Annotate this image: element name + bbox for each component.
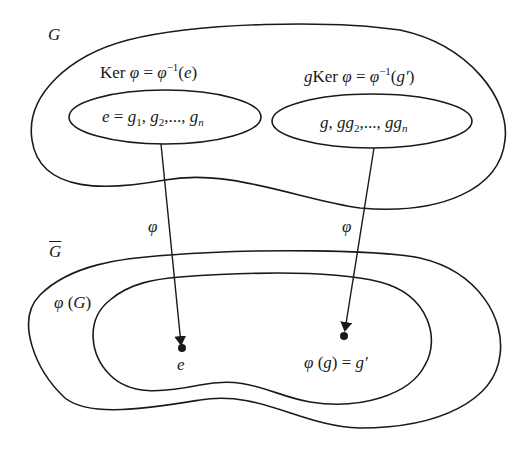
phi-label-left: φ xyxy=(148,218,157,235)
phi-arrow-left xyxy=(161,144,181,344)
diagram-shapes xyxy=(0,0,526,449)
point-e-label: e xyxy=(177,356,185,373)
set-G-bar-label: G xyxy=(49,243,61,260)
image-phi-G-label: φ (G) xyxy=(54,294,91,311)
point-e xyxy=(178,344,186,352)
image-phi-G-boundary xyxy=(93,273,431,404)
homomorphism-diagram: G Ker φ = φ−1(e) e = g1, g2,..., gn gKer… xyxy=(0,0,526,449)
gker-phi-title: gKer φ = φ−1(g′) xyxy=(304,66,414,85)
phi-label-right: φ xyxy=(342,218,351,235)
point-g-prime xyxy=(340,332,348,340)
set-G-label: G xyxy=(48,26,60,43)
ker-phi-title: Ker φ = φ−1(e) xyxy=(100,62,197,81)
gker-phi-contents: g, gg2,..., ggn xyxy=(320,114,408,134)
point-g-prime-label: φ (g) = g′ xyxy=(304,354,368,371)
set-G-bar-boundary xyxy=(29,251,501,428)
phi-arrow-right xyxy=(345,148,374,330)
ker-phi-contents: e = g1, g2,..., gn xyxy=(102,108,204,128)
